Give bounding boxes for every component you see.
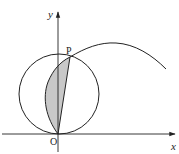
y-axis-label: y: [48, 9, 53, 20]
point-p-label: P: [66, 46, 72, 56]
diagram-figure: y P O x: [0, 0, 179, 154]
diagram-canvas: [0, 0, 179, 154]
x-axis-label: x: [171, 141, 176, 152]
origin-label: O: [50, 137, 57, 147]
